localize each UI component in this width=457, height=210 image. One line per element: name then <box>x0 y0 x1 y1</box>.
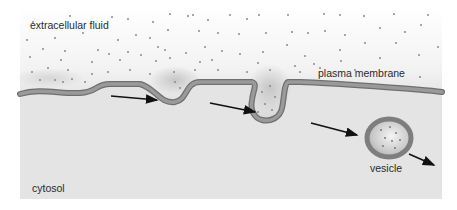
label-extracellular-fluid: extracellular fluid <box>30 19 109 31</box>
pit-shade-3 <box>15 68 85 88</box>
vesicle <box>367 119 411 157</box>
label-vesicle: vesicle <box>370 162 402 174</box>
pit-shade-1 <box>150 66 200 94</box>
endocytosis-diagram <box>0 0 457 210</box>
label-cytosol: cytosol <box>32 182 65 194</box>
label-plasma-membrane: plasma membrane <box>318 67 405 79</box>
